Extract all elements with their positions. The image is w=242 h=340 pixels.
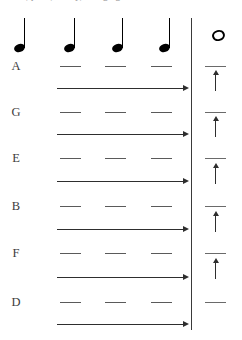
right-pitch-dash — [205, 253, 226, 254]
pitch-dash — [105, 253, 126, 254]
pitch-dash — [151, 66, 172, 67]
arrow-right-icon — [183, 178, 189, 184]
pitch-dash — [151, 253, 172, 254]
pitch-label-f: F — [8, 247, 24, 260]
music-pitch-diagram: Pitch, pitch, steady, changing AGEBFD — [0, 0, 242, 340]
right-pitch-dash — [205, 302, 226, 303]
right-pitch-dash — [205, 206, 226, 207]
pitch-dash — [60, 112, 81, 113]
up-arrow-line — [215, 120, 216, 137]
pitch-dash — [151, 158, 172, 159]
arrow-right-icon — [183, 131, 189, 137]
quarter-note-1 — [14, 18, 30, 52]
right-pitch-dash — [205, 112, 226, 113]
horizontal-arrow-line — [57, 229, 183, 230]
pitch-dash — [151, 112, 172, 113]
up-arrow-line — [215, 215, 216, 232]
pitch-dash — [105, 302, 126, 303]
arrow-right-icon — [183, 226, 189, 232]
pitch-dash — [60, 158, 81, 159]
pitch-dash — [60, 302, 81, 303]
pitch-dash — [105, 66, 126, 67]
up-arrow-line — [215, 262, 216, 279]
up-arrow-line — [215, 74, 216, 91]
right-pitch-dash — [205, 66, 226, 67]
quarter-note-3 — [112, 18, 128, 52]
horizontal-arrow-line — [57, 88, 183, 89]
quarter-note-stem-icon — [24, 18, 25, 48]
arrow-up-icon — [213, 163, 219, 168]
horizontal-arrow-line — [57, 181, 183, 182]
horizontal-arrow-line — [57, 277, 183, 278]
arrow-up-icon — [213, 70, 219, 75]
arrow-right-icon — [183, 321, 189, 327]
pitch-dash — [105, 158, 126, 159]
quarter-note-stem-icon — [122, 18, 123, 48]
pitch-dash — [60, 253, 81, 254]
right-pitch-dash — [205, 158, 226, 159]
horizontal-arrow-line — [57, 324, 183, 325]
vertical-barline — [191, 18, 192, 330]
pitch-dash — [151, 302, 172, 303]
pitch-dash — [60, 206, 81, 207]
pitch-label-d: D — [8, 296, 24, 309]
cut-off-caption: Pitch, pitch, steady, changing — [6, 0, 236, 3]
arrow-up-icon — [213, 258, 219, 263]
pitch-dash — [60, 66, 81, 67]
arrow-up-icon — [213, 116, 219, 121]
up-arrow-line — [215, 167, 216, 184]
pitch-label-a: A — [8, 60, 24, 73]
arrow-up-icon — [213, 211, 219, 216]
pitch-dash — [105, 206, 126, 207]
whole-note — [212, 30, 225, 40]
pitch-label-g: G — [8, 106, 24, 119]
quarter-note-2 — [64, 18, 80, 52]
quarter-note-4 — [159, 18, 175, 52]
pitch-dash — [105, 112, 126, 113]
pitch-label-b: B — [8, 200, 24, 213]
whole-note-head-icon — [211, 29, 226, 43]
arrow-right-icon — [183, 85, 189, 91]
quarter-note-stem-icon — [169, 18, 170, 48]
quarter-note-stem-icon — [74, 18, 75, 48]
pitch-dash — [151, 206, 172, 207]
arrow-right-icon — [183, 274, 189, 280]
pitch-label-e: E — [8, 152, 24, 165]
horizontal-arrow-line — [57, 134, 183, 135]
